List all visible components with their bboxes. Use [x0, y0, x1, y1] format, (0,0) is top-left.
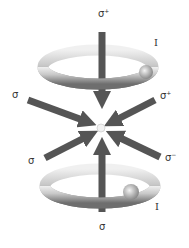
upper-coil-knob [139, 65, 153, 79]
atom-cloud [97, 124, 105, 132]
beam-top-label: σ+ [98, 8, 109, 19]
beam-upper-right-arrow [112, 100, 155, 122]
mot-diagram [0, 0, 189, 248]
lower-coil-knob [123, 184, 139, 200]
beam-upper-right-label: σ+ [160, 90, 171, 101]
lower-coil-current-label: I [155, 202, 159, 212]
upper-coil-current-label: I [154, 38, 158, 48]
beam-lower-right-label: σ− [165, 152, 176, 163]
beam-upper-left-label: σ [12, 89, 18, 100]
beam-lower-left-label: σ [28, 155, 34, 166]
beam-lower-right-arrow [114, 135, 160, 157]
beam-bottom-label: σ [99, 221, 105, 232]
beam-upper-left-arrow [28, 100, 88, 122]
beam-lower-left-arrow [45, 135, 90, 158]
